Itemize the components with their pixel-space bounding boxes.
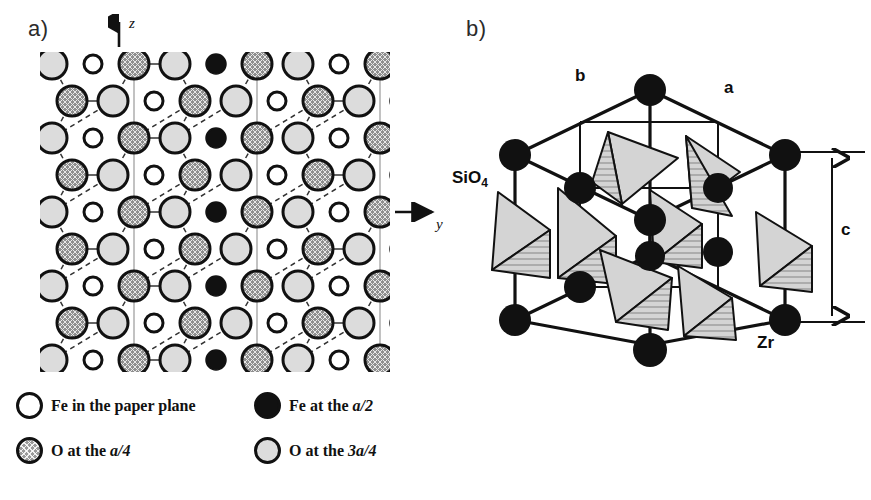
- z-axis-label: z: [129, 15, 135, 32]
- legend-item-fe-plane: Fe in the paper plane: [16, 392, 196, 419]
- o-3a4-atom: [40, 52, 67, 79]
- zr-atom: [499, 304, 531, 336]
- o-3a4-atom: [221, 86, 251, 116]
- fe-plane-atom: [84, 277, 102, 295]
- tetrahedron: [592, 132, 678, 204]
- fe-plane-atom: [145, 92, 163, 110]
- fe-plane-atom: [268, 166, 286, 184]
- o-3a4-atom: [283, 271, 313, 301]
- fe-plane-atom: [330, 203, 348, 221]
- axis-label-b: b: [575, 66, 585, 86]
- o-3a4-atom: [98, 308, 128, 338]
- o-3a4-atom: [344, 308, 374, 338]
- legend-text-italic: 3a/4: [348, 442, 376, 459]
- fe-plane-atom: [84, 203, 102, 221]
- o-3a4-atom: [98, 160, 128, 190]
- fe-plane-atom: [145, 166, 163, 184]
- o-a4-atom: [57, 86, 87, 116]
- o-a4-atom: [180, 234, 210, 264]
- o-a4-atom: [57, 308, 87, 338]
- zr-atom: [564, 172, 596, 204]
- legend-label-fe-plane: Fe in the paper plane: [51, 397, 196, 415]
- o-a4-atom: [119, 123, 149, 153]
- legend-text: O at the: [289, 442, 348, 459]
- y-axis-arrow: [394, 202, 442, 222]
- filled-circle-icon: [254, 392, 281, 419]
- panel-label-a: a): [28, 16, 49, 42]
- o-3a4-atom: [40, 123, 67, 153]
- o-3a4-atom: [344, 234, 374, 264]
- unit-cell-svg: [440, 40, 871, 380]
- open-circle-icon: [16, 392, 43, 419]
- o-3a4-atom: [160, 271, 190, 301]
- legend-item-o-3a4: O at the 3a/4: [254, 437, 377, 464]
- fe-a2-atom: [206, 276, 226, 296]
- o-a4-atom: [242, 271, 272, 301]
- o-a4-atom: [242, 52, 272, 79]
- lattice-svg: [40, 52, 390, 372]
- zr-label: Zr: [757, 333, 774, 353]
- fe-plane-atom: [330, 55, 348, 73]
- o-3a4-atom: [283, 123, 313, 153]
- o-3a4-atom: [40, 345, 67, 372]
- o-a4-atom: [119, 271, 149, 301]
- o-a4-atom: [119, 197, 149, 227]
- figure-root: a) z y b): [0, 0, 871, 500]
- o-3a4-atom: [160, 123, 190, 153]
- tetrahedron: [678, 266, 736, 340]
- zr-atom: [634, 204, 666, 236]
- legend-label-o-a4: O at the a/4: [51, 442, 131, 460]
- fe-a2-atom: [206, 350, 226, 370]
- o-a4-atom: [119, 345, 149, 372]
- o-3a4-atom: [98, 86, 128, 116]
- legend-text-italic: a/2: [353, 397, 373, 414]
- panel-label-b: b): [466, 16, 487, 42]
- o-a4-atom: [242, 123, 272, 153]
- o-a4-atom: [57, 234, 87, 264]
- o-a4-atom: [303, 160, 333, 190]
- o-3a4-atom: [344, 160, 374, 190]
- o-a4-atom: [180, 160, 210, 190]
- fe-a2-atom: [206, 202, 226, 222]
- zr-atom: [564, 271, 596, 303]
- o-a4-atom: [365, 52, 390, 79]
- legend-text: Fe in the paper plane: [51, 397, 196, 414]
- sio4-label-sub: 4: [481, 176, 488, 190]
- axis-label-c: c: [841, 220, 850, 240]
- o-a4-atom: [180, 308, 210, 338]
- o-3a4-atom: [344, 86, 374, 116]
- fe-plane-atom: [84, 55, 102, 73]
- o-a4-atom: [303, 234, 333, 264]
- o-3a4-atom: [221, 308, 251, 338]
- o-3a4-atom: [98, 234, 128, 264]
- o-3a4-atom: [160, 345, 190, 372]
- sio4-label-text: SiO: [452, 168, 481, 187]
- o-3a4-atom: [40, 197, 67, 227]
- o-3a4-atom: [283, 197, 313, 227]
- legend-item-fe-a2: Fe at the a/2: [254, 392, 373, 419]
- o-a4-atom: [57, 160, 87, 190]
- fe-plane-atom: [268, 314, 286, 332]
- o-a4-atom: [365, 271, 390, 301]
- o-a4-atom: [365, 123, 390, 153]
- light-circle-icon: [254, 437, 281, 464]
- fe-plane-atom: [145, 240, 163, 258]
- legend-text: Fe at the: [289, 397, 353, 414]
- zr-atom: [769, 139, 801, 171]
- fe-a2-atom: [206, 128, 226, 148]
- zr-atom: [635, 241, 665, 271]
- o-3a4-atom: [283, 345, 313, 372]
- legend: Fe in the paper plane Fe at the a/2 O at…: [16, 392, 446, 492]
- o-a4-atom: [365, 197, 390, 227]
- zr-atom: [769, 304, 801, 336]
- o-a4-atom: [180, 86, 210, 116]
- legend-label-fe-a2: Fe at the a/2: [289, 397, 373, 415]
- zr-atom: [634, 74, 666, 106]
- fe-plane-atom: [84, 351, 102, 369]
- o-3a4-atom: [160, 52, 190, 79]
- o-a4-atom: [119, 52, 149, 79]
- zr-atom: [499, 139, 531, 171]
- fe-plane-atom: [330, 277, 348, 295]
- fe-plane-atom: [145, 314, 163, 332]
- o-a4-atom: [303, 86, 333, 116]
